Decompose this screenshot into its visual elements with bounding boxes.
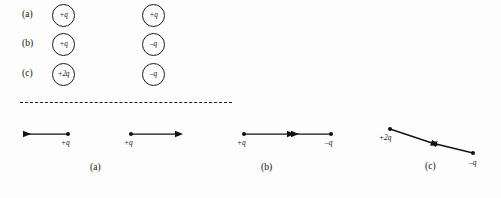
row-b-right-charge-label: –q — [150, 41, 157, 48]
row-label-a: (a) — [22, 10, 33, 20]
panel-caption-c: (c) — [425, 162, 436, 172]
row-b-left-charge-label: +q — [59, 41, 67, 48]
charge-label-a-left: +q — [61, 139, 70, 146]
force-arrow-c-left — [390, 129, 432, 143]
row-label-c: (c) — [22, 69, 33, 79]
row-label-b: (b) — [22, 39, 33, 49]
charge-label-a-right: +q — [124, 139, 133, 146]
panel-caption-a: (a) — [90, 163, 101, 173]
charge-label-b-right: –q — [325, 139, 332, 146]
row-b-left-charge: +q — [52, 33, 75, 56]
charge-pair-rows: (a) +q +q (b) +q –q (c) +2q –q — [0, 0, 501, 90]
row-c-left-charge-label: +2q — [58, 71, 70, 78]
dashed-divider — [20, 102, 232, 103]
row-a-right-charge-label: +q — [149, 12, 157, 19]
panel-caption-b: (b) — [261, 163, 272, 173]
force-arrow-c-right — [436, 144, 473, 153]
row-a-left-charge-label: +q — [59, 12, 67, 19]
row-a-left-charge: +q — [52, 4, 75, 27]
row-c-right-charge-label: –q — [150, 71, 157, 78]
charge-label-b-left: +q — [237, 139, 246, 146]
force-panel-a: +q +q (a) — [0, 110, 180, 180]
row-c-left-charge: +2q — [52, 63, 75, 86]
row-c-right-charge: –q — [142, 63, 165, 86]
force-panel-b: +q –q (b) — [195, 110, 345, 180]
charge-label-c-right: –q — [469, 159, 476, 166]
physics-force-diagram: (a) +q +q (b) +q –q (c) +2q –q — [0, 0, 501, 198]
charge-label-c-left: +2q — [379, 134, 391, 141]
row-a-right-charge: +q — [142, 4, 165, 27]
force-panel-c: +2q –q (c) — [370, 118, 501, 188]
row-b-right-charge: –q — [142, 33, 165, 56]
